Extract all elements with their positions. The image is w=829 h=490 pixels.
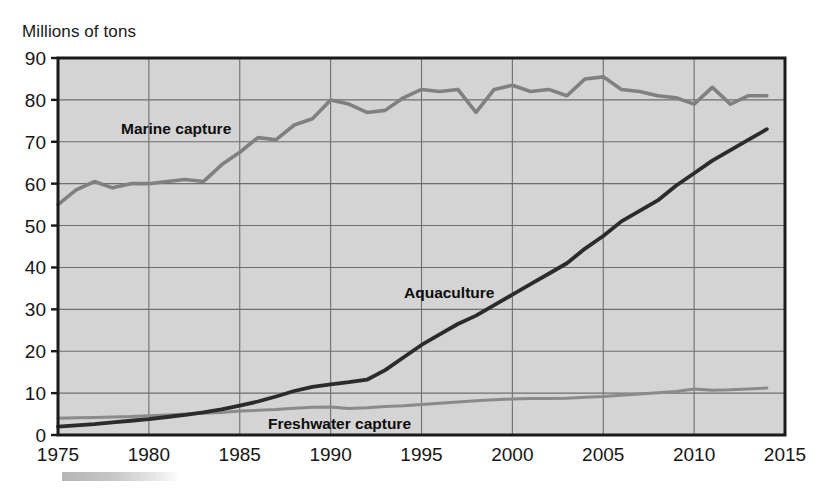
x-tick-2010: 2010: [673, 444, 715, 465]
y-axis-tick-labels: 0102030405060708090: [25, 48, 46, 446]
y-tick-80: 80: [25, 90, 46, 111]
x-tick-1995: 1995: [400, 444, 442, 465]
x-tick-1975: 1975: [37, 444, 79, 465]
y-tick-40: 40: [25, 257, 46, 278]
y-tick-30: 30: [25, 299, 46, 320]
y-tick-0: 0: [35, 425, 46, 446]
x-tick-1990: 1990: [309, 444, 351, 465]
x-tick-1980: 1980: [128, 444, 170, 465]
y-tick-20: 20: [25, 341, 46, 362]
x-tick-2000: 2000: [491, 444, 533, 465]
marine-capture-label: Marine capture: [121, 120, 232, 137]
freshwater-capture-label: Freshwater capture: [268, 415, 411, 432]
y-tick-10: 10: [25, 383, 46, 404]
aquaculture-label: Aquaculture: [404, 284, 495, 301]
x-tick-1985: 1985: [219, 444, 261, 465]
y-tick-90: 90: [25, 48, 46, 69]
bottom-gradient-strip: [62, 472, 177, 481]
x-axis-tick-labels: 197519801985199019952000200520102015: [37, 444, 806, 465]
fishery-production-chart-figure: Millions of tons 0102030405060708090 197…: [0, 0, 829, 490]
x-tick-2005: 2005: [582, 444, 624, 465]
y-tick-50: 50: [25, 216, 46, 237]
y-tick-60: 60: [25, 174, 46, 195]
chart-plot-svg: 0102030405060708090 19751980198519901995…: [0, 0, 829, 470]
x-tick-2015: 2015: [764, 444, 806, 465]
y-tick-70: 70: [25, 132, 46, 153]
